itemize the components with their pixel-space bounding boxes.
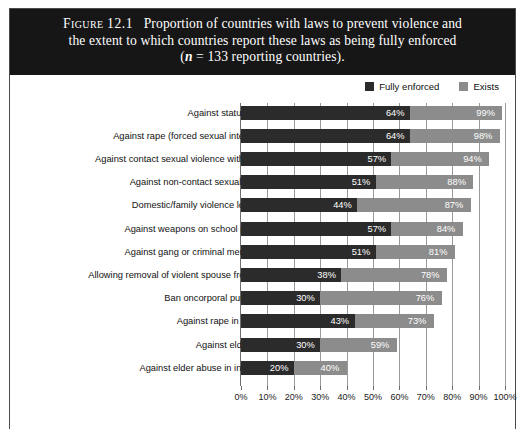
bar-row: 64%98% (241, 129, 505, 143)
x-tick-90 (479, 386, 480, 390)
x-tick-60 (399, 386, 400, 390)
bar-row: 43%73% (241, 314, 505, 328)
figure-caption: Figure 12.1 Proportion of countries with… (10, 9, 515, 75)
legend-item-exists: Exists (459, 81, 499, 92)
x-tick-100 (505, 386, 506, 390)
chart-legend: Fully enforced Exists (365, 81, 499, 92)
legend-swatch-icon-fully-enforced (365, 82, 374, 91)
legend-swatch-icon-exists (459, 82, 468, 91)
bar-value-exists: 78% (421, 268, 440, 282)
x-tick-label: 40% (338, 392, 356, 402)
x-tick-label: 100% (493, 392, 516, 402)
x-tick-label: 20% (285, 392, 303, 402)
plot-region: 0%10%20%30%40%50%60%70%80%90%100% 64%99%… (241, 103, 505, 386)
bar-row: 51%81% (241, 245, 505, 259)
bar-value-exists: 87% (445, 198, 464, 212)
x-tick-70 (426, 386, 427, 390)
x-tick-label: 10% (258, 392, 276, 402)
bar-value-exists: 98% (474, 129, 493, 143)
x-tick-label: 50% (364, 392, 382, 402)
bar-row: 57%94% (241, 152, 505, 166)
bar-value-exists: 73% (408, 314, 427, 328)
bar-value-exists: 81% (429, 245, 448, 259)
bar-value-fully-enforced: 38% (317, 268, 336, 282)
x-tick-40 (347, 386, 348, 390)
figure-container: Figure 12.1 Proportion of countries with… (9, 8, 516, 429)
bar-value-exists: 99% (476, 106, 495, 120)
sample-size-symbol: n (185, 49, 193, 64)
x-tick-label: 90% (470, 392, 488, 402)
legend-item-fully-enforced: Fully enforced (365, 81, 439, 92)
x-tick-label: 80% (443, 392, 461, 402)
legend-label-fully-enforced: Fully enforced (379, 81, 439, 92)
bar-value-fully-enforced: 51% (352, 245, 371, 259)
bar-row: 64%99% (241, 106, 505, 120)
bar-value-exists: 40% (321, 361, 340, 375)
x-tick-label: 60% (390, 392, 408, 402)
bar-value-exists: 84% (437, 222, 456, 236)
bar-fully-enforced (241, 129, 410, 143)
caption-line-2: the extent to which countries report the… (32, 33, 493, 50)
caption-line-3: (n = 133 reporting countries). (32, 49, 493, 66)
bar-value-fully-enforced: 57% (367, 222, 386, 236)
bar-value-fully-enforced: 44% (333, 198, 352, 212)
bar-row: 30%76% (241, 291, 505, 305)
bar-row: 57%84% (241, 222, 505, 236)
chart-area: Fully enforced Exists 0%10%20%30%40%50%6… (10, 75, 515, 439)
bar-value-fully-enforced: 64% (386, 129, 405, 143)
bar-value-fully-enforced: 20% (270, 361, 289, 375)
figure-number: 12.1 (107, 16, 133, 31)
bar-value-fully-enforced: 30% (296, 338, 315, 352)
caption-sample-size: = 133 reporting countries). (193, 49, 345, 64)
x-tick-50 (373, 386, 374, 390)
bar-fully-enforced (241, 106, 410, 120)
x-tick-80 (452, 386, 453, 390)
x-tick-10 (267, 386, 268, 390)
bar-value-fully-enforced: 43% (331, 314, 350, 328)
bar-row: 51%88% (241, 175, 505, 189)
x-tick-0 (241, 386, 242, 390)
bar-value-exists: 88% (447, 175, 466, 189)
figure-label: Figure (63, 16, 104, 31)
bar-row: 30%59% (241, 338, 505, 352)
bar-value-fully-enforced: 30% (296, 291, 315, 305)
gridline-100 (505, 103, 506, 386)
bar-value-exists: 76% (416, 291, 435, 305)
bar-value-exists: 94% (463, 152, 482, 166)
x-tick-20 (294, 386, 295, 390)
caption-line-1: Figure 12.1 Proportion of countries with… (32, 16, 493, 33)
caption-text-1: Proportion of countries with laws to pre… (144, 16, 462, 31)
bar-row: 38%78% (241, 268, 505, 282)
bar-value-fully-enforced: 64% (386, 106, 405, 120)
bar-value-fully-enforced: 51% (352, 175, 371, 189)
x-tick-label: 30% (311, 392, 329, 402)
bar-value-exists: 59% (371, 338, 390, 352)
x-tick-label: 70% (417, 392, 435, 402)
bar-value-fully-enforced: 57% (367, 152, 386, 166)
bar-row: 20%40% (241, 361, 505, 375)
bar-row: 44%87% (241, 198, 505, 212)
x-tick-30 (320, 386, 321, 390)
legend-label-exists: Exists (473, 81, 499, 92)
x-tick-label: 0% (234, 392, 247, 402)
